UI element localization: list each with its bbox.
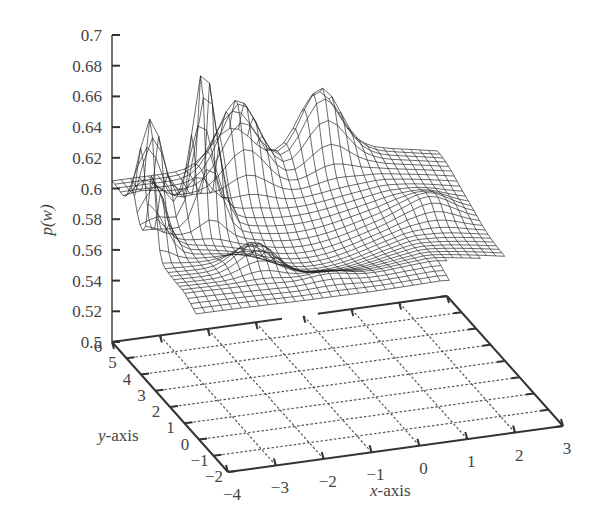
z-tick-label: 0.54 <box>72 272 102 291</box>
z-tick-label: 0.58 <box>72 210 102 229</box>
z-axis <box>112 35 120 342</box>
z-axis-label: p(w) <box>37 204 56 237</box>
z-tick-label: 0.56 <box>72 241 102 260</box>
mesh-line <box>139 136 223 310</box>
y-tick-label: 6 <box>94 337 103 356</box>
mesh-line <box>112 92 437 181</box>
x-tick-label: −3 <box>271 478 289 497</box>
z-tick-label: 0.62 <box>72 149 102 168</box>
x-axis-label: x-axis <box>369 481 411 500</box>
y-tick-label: 4 <box>123 370 132 389</box>
x-tick-label: 0 <box>419 459 428 478</box>
z-tick-label: 0.68 <box>72 57 102 76</box>
y-tick-label: 3 <box>137 386 146 405</box>
z-tick-label: 0.6 <box>81 180 102 199</box>
mesh-line <box>115 88 440 184</box>
surface-plot: 0.50.520.540.560.580.60.620.640.660.680.… <box>0 0 606 516</box>
floor-grid <box>127 303 549 466</box>
mesh-line <box>130 119 214 311</box>
y-tick-label: 5 <box>108 353 117 372</box>
surface-mesh <box>112 76 505 314</box>
y-tick-label: 0 <box>181 435 190 454</box>
y-tick-label: −1 <box>190 451 208 470</box>
z-tick-label: 0.52 <box>72 302 102 321</box>
z-tick-label: 0.64 <box>72 118 102 137</box>
z-tick-label: 0.66 <box>72 87 102 106</box>
mesh-line <box>193 275 446 308</box>
x-tick-label: 3 <box>563 439 572 458</box>
mesh-line <box>146 193 472 241</box>
mesh-line <box>166 135 250 307</box>
tick-labels: 0.50.520.540.560.580.60.620.640.660.680.… <box>72 26 571 504</box>
mesh-line <box>118 99 443 188</box>
x-tick-label: 2 <box>515 446 524 465</box>
y-axis-label: y-axis <box>96 426 139 445</box>
y-tick-label: 1 <box>166 418 175 437</box>
y-tick-label: 2 <box>152 402 161 421</box>
floor-frame <box>112 296 563 472</box>
y-tick-label: −2 <box>205 467 223 486</box>
mesh-line <box>257 136 341 295</box>
x-tick-label: −2 <box>319 472 337 491</box>
x-tick-label: −4 <box>223 485 242 504</box>
z-tick-label: 0.7 <box>81 26 103 45</box>
x-tick-label: 1 <box>467 452 476 471</box>
